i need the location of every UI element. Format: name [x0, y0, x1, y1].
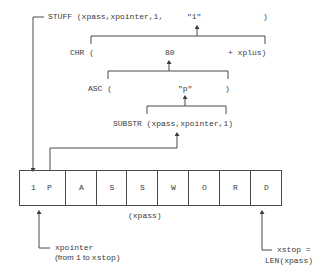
cell-value: D: [264, 183, 269, 192]
cell-value: O: [202, 183, 207, 192]
cell-value: A: [79, 183, 84, 192]
chr-value-text: 80: [165, 48, 175, 57]
array-cell-first: 1 P: [19, 170, 66, 205]
array-cell: A: [66, 170, 97, 205]
cell-value: W: [171, 183, 176, 192]
range-end: xstop): [92, 253, 121, 262]
array-cell: D: [251, 170, 282, 205]
substr-call-text: SUBSTR (xpass,xpointer,1): [113, 119, 233, 128]
cell-value: P: [47, 183, 52, 192]
stuff-result-arrow: [33, 17, 44, 170]
array-cell: W: [158, 170, 189, 205]
stuff-call-text: STUFF (xpass,xpointer,1,: [48, 12, 163, 21]
xstop-definition-label: LEN(xpass): [265, 256, 313, 265]
substr-bracket: [147, 106, 226, 114]
cell-value: R: [233, 183, 238, 192]
xstop-arrow: [262, 212, 272, 250]
asc-call-text: ASC (: [88, 84, 112, 93]
array-cell: O: [189, 170, 220, 205]
array-cell: R: [220, 170, 251, 205]
chr-close-text: + xplus): [228, 48, 266, 57]
stuff-value-text: "1": [187, 12, 201, 21]
array-cell: S: [127, 170, 158, 205]
xstop-label: xstop =: [277, 245, 311, 254]
stuff-close-paren: ): [263, 12, 268, 21]
string-manipulation-diagram: STUFF (xpass,xpointer,1, "1" ) CHR ( 80 …: [0, 0, 327, 277]
cell-value: 1: [31, 183, 36, 192]
connector-lines: [0, 0, 327, 277]
range-prefix: (from: [55, 253, 76, 262]
xpointer-arrow: [39, 212, 50, 248]
xpointer-label: xpointer: [55, 243, 93, 252]
asc-value-text: "p": [178, 84, 192, 93]
asc-bracket: [108, 71, 228, 79]
chr-call-text: CHR (: [70, 48, 94, 57]
asc-close-paren: ): [225, 84, 230, 93]
xpointer-range-label: (from 1 to xstop): [55, 253, 121, 262]
array-cell: S: [97, 170, 127, 205]
range-to: to: [81, 253, 92, 262]
cell-value: S: [140, 183, 145, 192]
p-to-substr-arrow: [50, 134, 177, 170]
array-label: (xpass): [128, 211, 162, 220]
chr-bracket: [91, 36, 265, 44]
cell-value: S: [110, 183, 115, 192]
